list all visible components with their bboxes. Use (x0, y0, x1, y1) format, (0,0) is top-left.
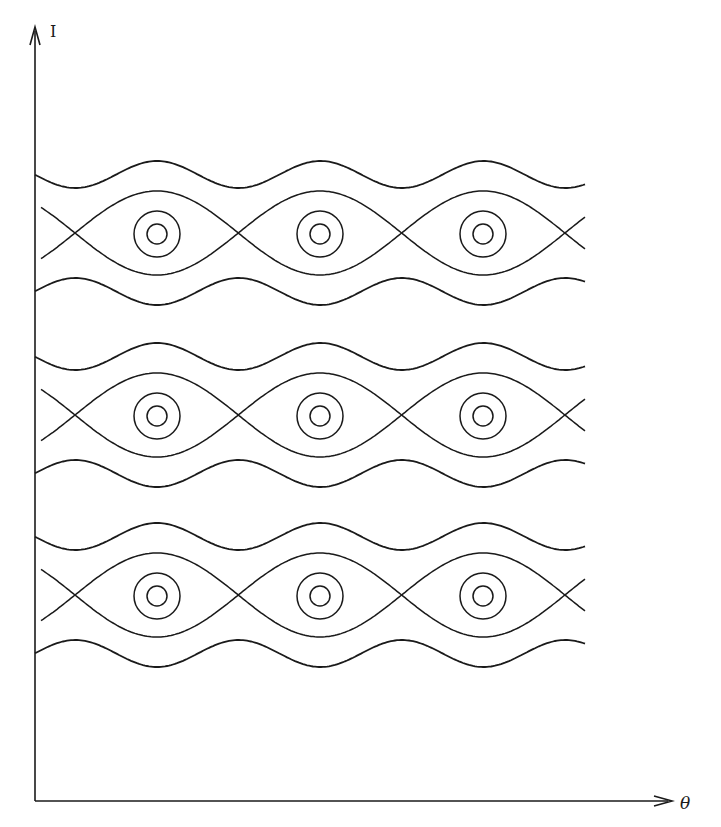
lower-rotational-curve (35, 278, 585, 305)
separatrix-branch-a (41, 553, 585, 637)
y-axis-label: I (50, 22, 56, 41)
separatrix-branch-b (41, 553, 585, 637)
island-outer-orbit (460, 393, 506, 439)
island-inner-orbit (473, 224, 493, 244)
upper-rotational-curve (35, 161, 585, 188)
island-outer-orbit (134, 393, 180, 439)
island-inner-orbit (473, 586, 493, 606)
island-outer-orbit (460, 211, 506, 257)
separatrix-branch-b (41, 191, 585, 275)
lower-rotational-curve (35, 460, 585, 487)
island-inner-orbit (310, 406, 330, 426)
island-outer-orbit (460, 573, 506, 619)
x-axis-label: θ (680, 793, 690, 813)
island-inner-orbit (147, 586, 167, 606)
island-outer-orbit (297, 393, 343, 439)
phase-portrait-diagram (0, 0, 721, 827)
island-outer-orbit (297, 573, 343, 619)
island-outer-orbit (134, 573, 180, 619)
resonance-band-1 (35, 161, 585, 305)
separatrix-branch-a (41, 191, 585, 275)
island-inner-orbit (147, 224, 167, 244)
upper-rotational-curve (35, 343, 585, 370)
island-outer-orbit (134, 211, 180, 257)
island-inner-orbit (473, 406, 493, 426)
island-inner-orbit (310, 586, 330, 606)
island-inner-orbit (310, 224, 330, 244)
upper-rotational-curve (35, 523, 585, 550)
resonance-band-3 (35, 523, 585, 667)
island-inner-orbit (147, 406, 167, 426)
separatrix-branch-b (41, 373, 585, 457)
axes (30, 27, 672, 806)
resonance-band-2 (35, 343, 585, 487)
resonance-bands (35, 161, 585, 667)
separatrix-branch-a (41, 373, 585, 457)
island-outer-orbit (297, 211, 343, 257)
lower-rotational-curve (35, 640, 585, 667)
